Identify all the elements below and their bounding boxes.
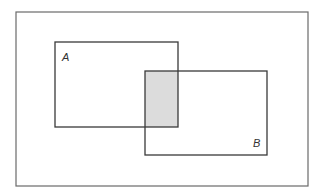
- venn-diagram: A B: [0, 0, 323, 194]
- intersection-shaded-region: [145, 71, 178, 127]
- set-b-label: B: [253, 137, 260, 149]
- set-a-label: A: [61, 51, 69, 63]
